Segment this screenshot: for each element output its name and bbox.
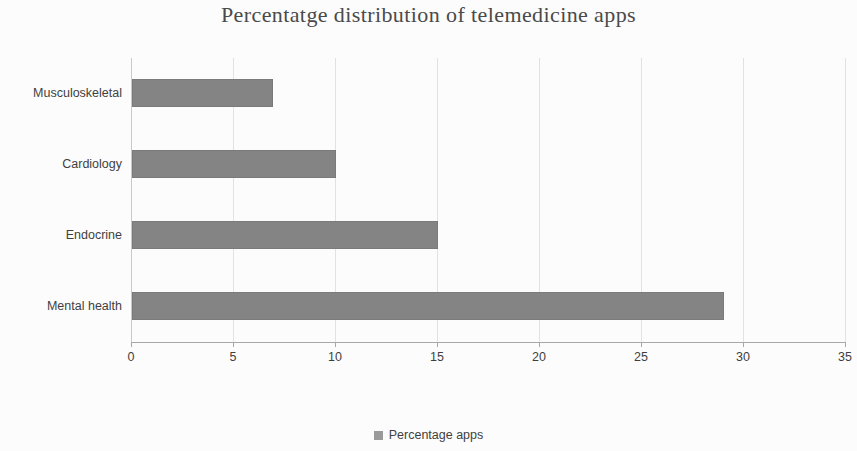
x-tick-label-25: 25 [621,350,661,364]
bar-row [131,200,845,271]
x-axis-line [131,342,846,343]
x-tick-label-35: 35 [825,350,857,364]
bar-endocrine[interactable] [132,221,438,249]
x-tick-mark-10 [335,342,336,347]
x-tick-mark-25 [641,342,642,347]
chart-title: Percentatge distribution of telemedicine… [0,2,857,28]
x-tick-label-0: 0 [111,350,151,364]
x-tick-label-5: 5 [213,350,253,364]
gridline-35 [845,58,846,342]
bar-cardiology[interactable] [132,150,336,178]
x-tick-mark-5 [233,342,234,347]
bar-mental-health[interactable] [132,292,724,320]
bar-row [131,129,845,200]
bar-musculoskeletal[interactable] [132,79,273,107]
x-tick-mark-35 [845,342,846,347]
x-tick-label-10: 10 [315,350,355,364]
y-axis-label-mental-health: Mental health [0,298,122,314]
y-axis-label-cardiology: Cardiology [0,156,122,172]
x-tick-label-30: 30 [723,350,763,364]
chart-legend: Percentage apps [0,428,857,442]
x-tick-mark-15 [437,342,438,347]
x-tick-mark-20 [539,342,540,347]
bar-row [131,271,845,342]
x-tick-label-15: 15 [417,350,457,364]
x-tick-mark-30 [743,342,744,347]
legend-swatch-percentage-apps [374,431,383,440]
bar-row [131,58,845,129]
legend-label-percentage-apps: Percentage apps [389,428,484,442]
x-tick-mark-0 [131,342,132,347]
plot-area [131,58,845,342]
x-tick-label-20: 20 [519,350,559,364]
y-axis-label-endocrine: Endocrine [0,227,122,243]
bar-chart: Percentatge distribution of telemedicine… [0,0,857,451]
y-axis-label-musculoskeletal: Musculoskeletal [0,85,122,101]
